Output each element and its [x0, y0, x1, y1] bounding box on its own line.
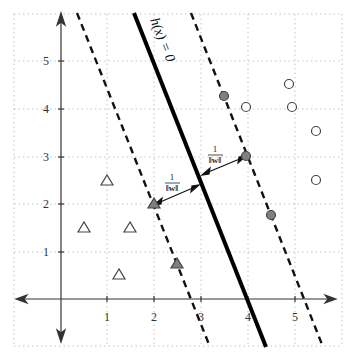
circle-point	[242, 103, 251, 112]
circle-point-support-vector	[242, 152, 251, 161]
margin-label-right: 1 ‖w‖	[208, 144, 223, 165]
circle-point-support-vector	[267, 211, 276, 220]
y-tick-4: 4	[43, 102, 49, 116]
y-tick-2: 2	[43, 197, 49, 211]
x-tick-labels: 1 2 3 4 5	[104, 310, 298, 324]
y-tick-5: 5	[43, 54, 49, 68]
x-tick-2: 2	[151, 310, 157, 324]
circle-point-support-vector	[220, 92, 229, 101]
svg-text:1: 1	[170, 172, 175, 182]
x-tick-1: 1	[104, 310, 110, 324]
axes	[16, 13, 336, 342]
y-tick-labels: 1 2 3 4 5	[43, 54, 49, 259]
grid	[14, 14, 342, 346]
svg-text:‖w‖: ‖w‖	[166, 183, 178, 193]
y-tick-1: 1	[43, 245, 49, 259]
margin-label-left: 1 ‖w‖	[165, 172, 180, 193]
circle-point	[312, 127, 321, 136]
triangle-point	[78, 222, 90, 232]
arrowhead-icon	[191, 185, 199, 192]
circle-point	[285, 80, 294, 89]
x-tick-5: 5	[292, 310, 298, 324]
y-tick-3: 3	[43, 150, 49, 164]
svg-text:1: 1	[213, 144, 218, 154]
triangle-point	[101, 175, 113, 185]
lower-margin-line	[77, 13, 210, 347]
triangle-point-support-vector	[171, 258, 183, 268]
triangle-point	[124, 222, 136, 232]
svm-diagram: 1 2 3 4 5 1 2 3 4 5 h(x) = 0 1 ‖w‖ 1 ‖w‖	[0, 0, 351, 359]
svg-text:‖w‖: ‖w‖	[209, 155, 221, 165]
circle-point	[312, 176, 321, 185]
upper-margin-line	[191, 13, 323, 347]
circle-point	[288, 103, 297, 112]
circle-points	[220, 80, 321, 220]
arrowhead-icon	[202, 168, 210, 175]
triangle-point	[113, 269, 125, 279]
